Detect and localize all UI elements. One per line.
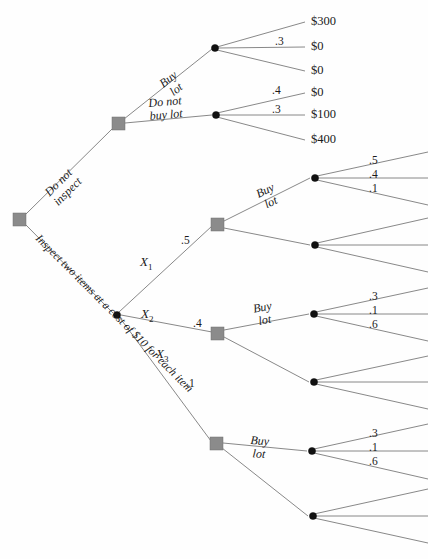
payoff-0-c: $0 bbox=[311, 86, 324, 100]
label-x2-sub: 2 bbox=[149, 314, 154, 324]
prob-buy-lot-top-2: .3 bbox=[275, 35, 284, 47]
label-x2-name: X bbox=[141, 306, 149, 321]
label-x1-name: X bbox=[140, 254, 148, 269]
prob-x1-buy-3: .1 bbox=[369, 182, 378, 194]
terminal-branch-300 bbox=[217, 22, 305, 47]
payoff-400: $400 bbox=[311, 133, 336, 147]
node-x3-decision[interactable] bbox=[210, 437, 223, 450]
prob-do-not-buy-2: .3 bbox=[272, 103, 281, 115]
prob-x1: .5 bbox=[181, 234, 190, 246]
prob-x2-buy-3: .6 bbox=[369, 318, 378, 330]
label-do-not-buy-lot: Do not buy lot bbox=[148, 94, 183, 123]
node-chance-x3-buy[interactable] bbox=[308, 447, 315, 454]
node-chance-do-not-buy-lot[interactable] bbox=[212, 111, 219, 118]
label-x1: X1 bbox=[140, 255, 152, 272]
label-x2: X2 bbox=[141, 307, 153, 324]
branch-x1 bbox=[119, 226, 212, 312]
prob-x3-buy-2: .1 bbox=[369, 441, 378, 453]
terminal-branch-x3-nobuy-1 bbox=[314, 489, 428, 514]
terminal-branch-x2-nobuy-3 bbox=[316, 384, 428, 409]
prob-x2: .4 bbox=[193, 317, 202, 329]
payoff-0-a: $0 bbox=[311, 40, 324, 54]
node-x2-decision[interactable] bbox=[211, 327, 224, 340]
terminal-branch-x1-nobuy-3 bbox=[317, 247, 428, 272]
node-do-not-inspect-decision[interactable] bbox=[112, 117, 125, 130]
node-chance-x2-buy[interactable] bbox=[310, 310, 317, 317]
prob-x1-buy-2: .4 bbox=[369, 168, 378, 180]
branch-x2-do-not-buy bbox=[224, 337, 309, 382]
terminal-branch-0-c bbox=[217, 93, 305, 113]
decision-tree-figure: $300 $0 $0 $0 $100 $400 .3 .4 .3 .5 .4 .… bbox=[0, 0, 428, 559]
node-chance-x1-buy[interactable] bbox=[311, 174, 318, 181]
prob-x3-buy-1: .3 bbox=[369, 427, 378, 439]
payoff-300: $300 bbox=[311, 15, 336, 29]
node-chance-x2-nobuy[interactable] bbox=[310, 378, 317, 385]
prob-do-not-buy-1: .4 bbox=[272, 84, 281, 96]
terminal-branch-0-a bbox=[218, 47, 305, 48]
payoff-0-b: $0 bbox=[311, 64, 324, 78]
prob-x3-buy-3: .6 bbox=[369, 455, 378, 467]
terminal-branch-x2-nobuy-1 bbox=[316, 356, 428, 380]
terminal-branch-x3-nobuy-3 bbox=[314, 518, 428, 543]
payoff-100: $100 bbox=[311, 108, 336, 122]
node-x1-decision[interactable] bbox=[211, 218, 224, 231]
label-x1-sub: 1 bbox=[148, 262, 153, 272]
decision-tree-svg bbox=[0, 0, 428, 559]
node-chance-x3-nobuy[interactable] bbox=[309, 512, 316, 519]
terminal-branch-x1-nobuy-1 bbox=[317, 218, 428, 243]
prob-x2-buy-1: .3 bbox=[369, 290, 378, 302]
terminal-branch-400 bbox=[217, 117, 305, 140]
node-chance-x1-nobuy[interactable] bbox=[311, 241, 318, 248]
node-chance-buy-lot-top[interactable] bbox=[211, 44, 218, 51]
label-x3-buy-lot: Buy lot bbox=[249, 434, 269, 461]
terminal-branch-0-b bbox=[217, 50, 305, 71]
branch-x1-do-not-buy bbox=[224, 228, 310, 245]
prob-x2-buy-2: .1 bbox=[369, 304, 378, 316]
prob-x1-buy-1: .5 bbox=[369, 154, 378, 166]
node-root-decision[interactable] bbox=[13, 213, 26, 226]
label-x3-buy-lot-line2: lot bbox=[249, 447, 269, 461]
